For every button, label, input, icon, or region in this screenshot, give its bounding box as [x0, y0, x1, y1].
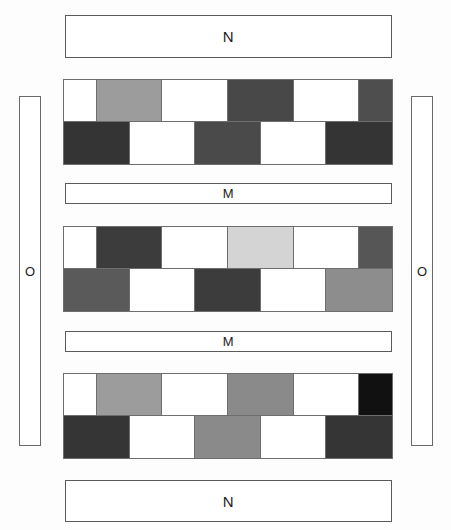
checkered-block-1-top-row	[64, 80, 392, 122]
mid-m-bar-2-label: M	[223, 334, 234, 349]
mid-m-bar-2: M	[65, 331, 392, 352]
checkered-block-3-bot-cell-4	[326, 416, 392, 458]
checkered-block-2-top-row	[64, 227, 392, 269]
checkered-block-3-top-cell-3	[228, 374, 294, 415]
top-n-bar: N	[65, 15, 392, 58]
checkered-block-3-bottom-row	[64, 416, 392, 458]
checkered-block-3-top-row	[64, 374, 392, 416]
checkered-block-1-bot-cell-0	[64, 122, 130, 164]
checkered-block-1-bot-cell-1	[130, 122, 196, 164]
checkered-block-1-bot-cell-4	[326, 122, 392, 164]
left-o-bar: O	[19, 96, 41, 446]
checkered-block-2-top-cell-4	[294, 227, 360, 268]
mid-m-bar-1-label: M	[223, 186, 234, 201]
left-o-bar-label: O	[25, 265, 35, 278]
bottom-n-bar: N	[65, 480, 392, 522]
checkered-block-2-bot-cell-3	[261, 269, 327, 311]
checkered-block-2-bottom-row	[64, 269, 392, 311]
checkered-block-1-top-cell-2	[162, 80, 228, 121]
checkered-block-3-top-cell-2	[162, 374, 228, 415]
checkered-block-1-top-cell-5	[359, 80, 393, 121]
checkered-block-2-top-cell-5	[359, 227, 393, 268]
checkered-block-1-top-cell-0	[64, 80, 97, 121]
checkered-block-3-top-cell-0	[64, 374, 97, 415]
checkered-block-1-bot-cell-2	[195, 122, 261, 164]
figure-canvas: NMMNOO	[0, 0, 451, 530]
right-o-bar-label: O	[417, 265, 427, 278]
checkered-block-1-bottom-row	[64, 122, 392, 164]
checkered-block-2-top-cell-1	[97, 227, 163, 268]
top-n-bar-label: N	[223, 28, 234, 45]
checkered-block-3-bot-cell-3	[261, 416, 327, 458]
mid-m-bar-1: M	[65, 183, 392, 204]
checkered-block-2-bot-cell-2	[195, 269, 261, 311]
checkered-block-3-top-cell-1	[97, 374, 163, 415]
checkered-block-1	[63, 79, 393, 165]
checkered-block-2	[63, 226, 393, 312]
checkered-block-3	[63, 373, 393, 459]
checkered-block-1-top-cell-1	[97, 80, 163, 121]
checkered-block-1-top-cell-3	[228, 80, 294, 121]
checkered-block-2-top-cell-2	[162, 227, 228, 268]
checkered-block-3-top-cell-5	[359, 374, 393, 415]
checkered-block-2-bot-cell-4	[326, 269, 392, 311]
checkered-block-3-top-cell-4	[294, 374, 360, 415]
checkered-block-3-bot-cell-0	[64, 416, 130, 458]
checkered-block-2-bot-cell-0	[64, 269, 130, 311]
checkered-block-2-top-cell-0	[64, 227, 97, 268]
right-o-bar: O	[411, 96, 433, 446]
checkered-block-1-top-cell-4	[294, 80, 360, 121]
checkered-block-3-bot-cell-2	[195, 416, 261, 458]
checkered-block-1-bot-cell-3	[261, 122, 327, 164]
checkered-block-2-bot-cell-1	[130, 269, 196, 311]
checkered-block-2-top-cell-3	[228, 227, 294, 268]
bottom-n-bar-label: N	[223, 493, 234, 510]
checkered-block-3-bot-cell-1	[130, 416, 196, 458]
